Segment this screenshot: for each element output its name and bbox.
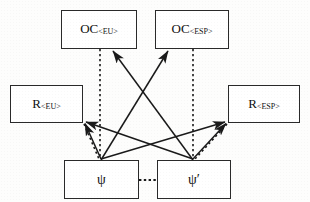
node-r-eu-subscript: <EU> (41, 102, 61, 111)
edge-r-eu-to-psi (84, 124, 99, 159)
node-psi-prime[interactable]: ψ′ (157, 160, 231, 199)
node-psi-label: ψ (97, 173, 106, 187)
edge-psi-to-r-eu (85, 124, 101, 160)
node-oc-eu[interactable]: OC<EU> (61, 10, 137, 49)
node-r-esp[interactable]: R<ESP> (228, 85, 300, 123)
edge-psip-to-r-eu (86, 122, 193, 159)
node-oc-esp[interactable]: OC<ESP> (155, 10, 229, 49)
node-oc-esp-subscript: <ESP> (190, 28, 213, 37)
node-oc-eu-subscript: <EU> (98, 28, 118, 37)
node-oc-esp-label: OC<ESP> (172, 22, 213, 36)
node-psi-prime-label: ψ′ (188, 173, 200, 187)
node-r-esp-label: R<ESP> (248, 97, 279, 111)
node-psi[interactable]: ψ (64, 160, 139, 199)
node-oc-eu-label: OC<EU> (80, 22, 118, 36)
node-r-eu[interactable]: R<EU> (10, 85, 83, 123)
diagram-canvas: OC<EU> OC<ESP> R<EU> R<ESP> ψ ψ′ (0, 0, 310, 202)
node-r-eu-label: R<EU> (32, 97, 60, 111)
node-r-esp-subscript: <ESP> (257, 102, 280, 111)
edge-psi-to-r-esp (101, 122, 225, 159)
edge-psi-to-oc-esp (101, 51, 168, 160)
edge-psip-to-r-esp (193, 124, 226, 160)
